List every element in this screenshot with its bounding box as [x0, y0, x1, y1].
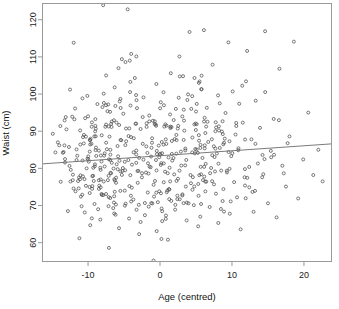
data-point	[123, 189, 126, 192]
y-axis-title: Waist (cm)	[0, 110, 11, 155]
data-point	[85, 167, 88, 170]
data-point	[88, 192, 91, 195]
data-point	[235, 121, 238, 124]
data-point	[244, 138, 247, 141]
data-point	[199, 215, 202, 218]
data-point	[266, 202, 269, 205]
data-point	[147, 162, 150, 165]
data-point	[182, 75, 185, 78]
data-point	[191, 188, 194, 191]
data-point	[135, 161, 138, 164]
data-point	[151, 141, 154, 144]
data-point	[233, 181, 236, 184]
data-point	[195, 102, 198, 105]
data-point	[214, 121, 217, 124]
data-point	[228, 212, 231, 215]
data-point	[201, 156, 204, 159]
data-point	[160, 140, 163, 143]
data-point	[282, 172, 285, 175]
data-point	[203, 116, 206, 119]
data-point	[184, 164, 187, 167]
data-point	[99, 168, 102, 171]
data-point	[202, 29, 205, 32]
data-point	[220, 169, 223, 172]
data-point	[113, 86, 116, 89]
data-point	[155, 230, 158, 233]
data-point	[170, 139, 173, 142]
data-point	[147, 205, 150, 208]
data-point	[254, 99, 257, 102]
data-point	[189, 182, 192, 185]
data-point	[64, 116, 67, 119]
data-point	[164, 214, 167, 217]
data-point	[143, 214, 146, 217]
data-point	[56, 141, 59, 144]
data-point	[100, 134, 103, 137]
data-point	[204, 162, 207, 165]
data-point	[82, 142, 85, 145]
data-point	[84, 184, 87, 187]
data-point	[77, 187, 80, 190]
data-point	[218, 129, 221, 132]
data-point	[103, 165, 106, 168]
data-point	[135, 153, 138, 156]
data-point	[174, 203, 177, 206]
data-point	[54, 151, 57, 154]
data-point	[218, 146, 221, 149]
data-point	[241, 84, 244, 87]
data-point	[227, 41, 230, 44]
data-point	[193, 77, 196, 80]
data-point	[97, 208, 100, 211]
data-point	[200, 203, 203, 206]
data-point	[101, 106, 104, 109]
data-point	[73, 118, 76, 121]
data-point	[118, 159, 121, 162]
plot-frame	[43, 4, 332, 262]
data-point	[146, 191, 149, 194]
data-point	[204, 132, 207, 135]
data-point	[145, 145, 148, 148]
data-point	[74, 107, 77, 110]
data-point	[135, 55, 138, 58]
data-point	[105, 148, 108, 151]
data-point	[307, 111, 310, 114]
data-point	[203, 120, 206, 123]
plot-canvas: 60708090100110120 -1001020 Waist (cm) Ag…	[0, 0, 339, 309]
data-point	[182, 108, 185, 111]
data-point	[130, 200, 133, 203]
data-point	[178, 75, 181, 78]
data-point	[113, 195, 116, 198]
data-point	[162, 104, 165, 107]
data-point	[203, 147, 206, 150]
data-point	[117, 67, 120, 70]
data-point	[93, 203, 96, 206]
data-point	[84, 117, 87, 120]
data-point	[206, 120, 209, 123]
data-point	[180, 164, 183, 167]
data-point	[99, 218, 102, 221]
data-point	[141, 142, 144, 145]
scatter-plot-figure: 60708090100110120 -1001020 Waist (cm) Ag…	[0, 0, 339, 309]
data-point	[224, 111, 227, 114]
data-point	[74, 190, 77, 193]
data-point	[264, 30, 267, 33]
data-point	[133, 77, 136, 80]
y-axis-tick-labels: 60708090100110120	[28, 12, 38, 247]
data-point	[107, 205, 110, 208]
data-point	[217, 221, 220, 224]
y-tick-label: 100	[28, 87, 38, 102]
data-point	[164, 217, 167, 220]
data-point	[160, 237, 163, 240]
data-point	[261, 153, 264, 156]
data-point	[213, 170, 216, 173]
data-point	[69, 168, 72, 171]
data-point	[197, 194, 200, 197]
data-point	[105, 74, 108, 77]
data-point	[89, 224, 92, 227]
data-point	[297, 197, 300, 200]
data-point	[183, 119, 186, 122]
data-point	[114, 104, 117, 107]
data-point	[51, 132, 54, 135]
data-point	[248, 165, 251, 168]
data-point	[208, 206, 211, 209]
